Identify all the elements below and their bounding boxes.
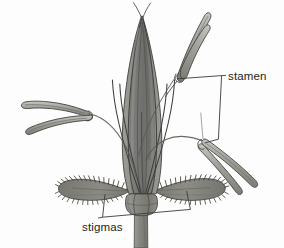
botanical-figure: stamen stigmas — [0, 0, 284, 248]
ovary-body — [126, 192, 158, 216]
stalk — [134, 212, 148, 248]
ovary — [126, 191, 158, 215]
label-stamen: stamen — [228, 70, 267, 82]
label-stigmas: stigmas — [82, 221, 123, 233]
stalk-body — [134, 212, 148, 248]
grass-floret-illustration: stamen stigmas — [0, 0, 284, 248]
